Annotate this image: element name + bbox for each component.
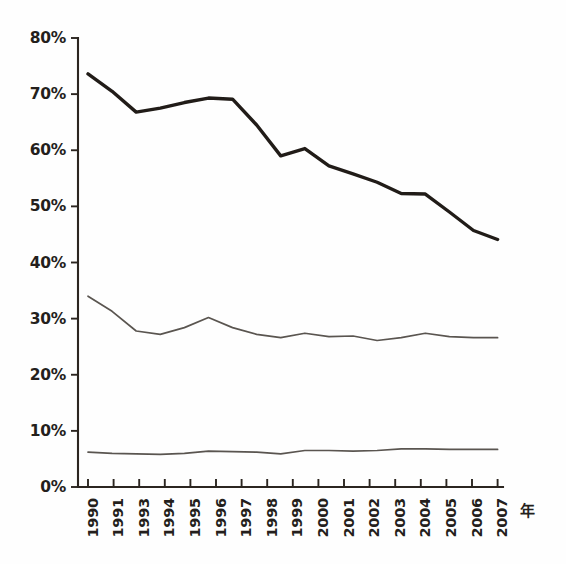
- x-tick-label: 2006: [469, 498, 485, 538]
- y-tick-label: 30%: [30, 310, 67, 328]
- y-tick-label: 70%: [30, 85, 67, 103]
- x-tick-label: 2005: [443, 498, 459, 538]
- y-tick-label: 10%: [30, 422, 67, 440]
- x-tick-label: 1999: [289, 498, 305, 538]
- chart-container: 0%10%20%30%40%50%60%70%80% 1990199119931…: [0, 0, 566, 564]
- x-tick-label: 1991: [110, 498, 126, 538]
- x-tick-label: 1993: [136, 498, 152, 538]
- y-tick-label: 50%: [30, 197, 67, 215]
- chart-background: [0, 0, 566, 564]
- y-tick-label: 80%: [30, 29, 67, 47]
- x-tick-label: 1995: [187, 498, 203, 538]
- y-axis-tick-labels: 0%10%20%30%40%50%60%70%80%: [30, 29, 67, 496]
- x-tick-label: 1990: [85, 498, 101, 538]
- x-tick-label: 2007: [494, 498, 510, 538]
- x-tick-label: 2003: [392, 498, 408, 538]
- x-tick-label: 2001: [341, 498, 357, 538]
- x-tick-label: 2002: [366, 498, 382, 538]
- x-axis-tick-labels: 1990199119931994199519961997199819992000…: [85, 498, 511, 538]
- x-tick-label: 1997: [238, 498, 254, 538]
- x-tick-label: 1994: [161, 498, 177, 538]
- x-axis-unit-label: 年: [520, 502, 535, 520]
- x-tick-label: 1998: [264, 498, 280, 538]
- x-tick-label: 1996: [213, 498, 229, 538]
- line-chart: 0%10%20%30%40%50%60%70%80% 1990199119931…: [0, 0, 566, 564]
- y-tick-label: 20%: [30, 366, 67, 384]
- x-tick-label: 2000: [315, 498, 331, 538]
- y-tick-label: 40%: [30, 254, 67, 272]
- y-tick-label: 0%: [40, 478, 66, 496]
- x-tick-label: 2004: [417, 498, 433, 538]
- y-tick-label: 60%: [30, 141, 67, 159]
